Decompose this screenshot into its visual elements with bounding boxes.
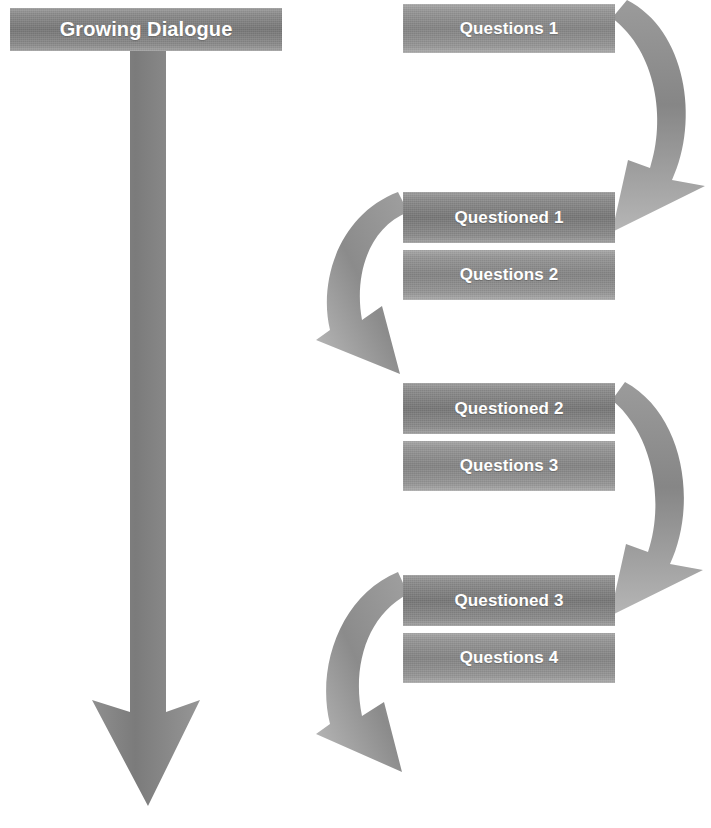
- curve-left-1-arrow: [316, 192, 408, 374]
- step-box-label: Questions 2: [460, 265, 558, 285]
- curve-right-2-arrow: [610, 382, 703, 616]
- curve-right-1-arrow: [612, 0, 705, 232]
- title-box-label: Growing Dialogue: [60, 18, 233, 41]
- step-box-questions-4: Questions 4: [403, 633, 615, 683]
- step-box-label: Questions 4: [460, 648, 558, 668]
- step-box-questions-1: Questions 1: [403, 4, 615, 53]
- step-box-questioned-2: Questioned 2: [403, 383, 615, 434]
- step-box-label: Questioned 3: [455, 591, 564, 611]
- diagram-canvas: Growing Dialogue Questions 1 Questioned …: [0, 0, 711, 828]
- step-box-questioned-3: Questioned 3: [403, 575, 615, 626]
- step-box-questions-2: Questions 2: [403, 250, 615, 300]
- step-box-label: Questioned 2: [455, 399, 564, 419]
- step-box-label: Questions 1: [460, 19, 558, 39]
- growing-dialogue-down-arrow: [92, 44, 200, 806]
- step-box-label: Questions 3: [460, 456, 558, 476]
- title-box: Growing Dialogue: [10, 8, 282, 51]
- step-box-questions-3: Questions 3: [403, 441, 615, 491]
- step-box-questioned-1: Questioned 1: [403, 192, 615, 243]
- curve-left-2-arrow: [316, 572, 408, 772]
- step-box-label: Questioned 1: [455, 208, 564, 228]
